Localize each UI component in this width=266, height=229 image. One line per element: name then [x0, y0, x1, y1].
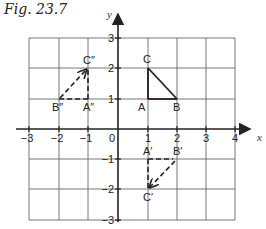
- triangle-abc: [148, 68, 177, 99]
- x-tick-label: 2: [174, 132, 180, 144]
- point-label-b-double-prime: B″: [52, 101, 63, 113]
- axes: [16, 14, 250, 222]
- x-axis-label: x: [256, 131, 262, 143]
- point-label-b: B: [173, 101, 180, 113]
- point-label-c-double-prime: C″: [83, 54, 95, 66]
- point-label-a: A: [138, 101, 146, 113]
- y-tick-label: 1: [108, 93, 114, 105]
- x-tick-label: 4: [232, 132, 238, 144]
- point-label-c-prime: C′: [143, 191, 153, 203]
- y-tick-label: −1: [101, 153, 114, 165]
- x-tick-label: −3: [21, 132, 34, 144]
- x-tick-label: 1: [145, 132, 151, 144]
- point-label-c: C: [143, 53, 151, 65]
- triangle-a2b2c2: [59, 70, 88, 99]
- point-label-a-prime: A′: [143, 145, 152, 157]
- x-tick-label: −2: [51, 132, 64, 144]
- y-tick-label: −3: [101, 214, 114, 226]
- coordinate-grid-diagram: y x −3 −2 −1 0 1 2 3 4 3 2 1 −1 −2 −3 A …: [0, 0, 266, 229]
- y-tick-label: 3: [108, 32, 114, 44]
- y-axis-label: y: [106, 8, 112, 20]
- point-label-a-double-prime: A″: [83, 101, 94, 113]
- y-tick-label: 2: [108, 62, 114, 74]
- point-label-b-prime: B′: [173, 145, 182, 157]
- x-tick-label: 0: [109, 132, 115, 144]
- x-tick-label: 3: [203, 132, 209, 144]
- x-tick-label: −1: [80, 132, 93, 144]
- triangle-a1b1c1: [148, 159, 175, 189]
- y-tick-label: −2: [101, 183, 114, 195]
